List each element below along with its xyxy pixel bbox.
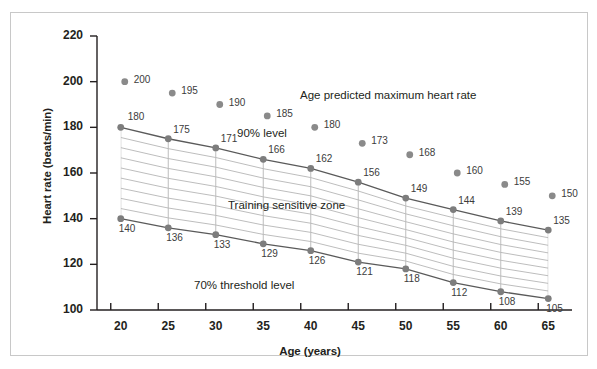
chart-figure: Heart rate (beats/min) Age (years) 10012… [0, 0, 597, 369]
data-point [497, 218, 504, 225]
point-value-label: 180 [324, 119, 341, 130]
data-point [212, 231, 219, 238]
x-tick-label: 20 [106, 319, 136, 333]
point-value-label: 168 [419, 147, 436, 158]
data-point [501, 181, 508, 188]
point-value-label: 200 [134, 74, 151, 85]
x-tick-label: 40 [296, 319, 326, 333]
point-value-label: 175 [173, 124, 190, 135]
y-tick-label: 100 [31, 302, 83, 316]
data-point [402, 266, 409, 273]
point-value-label: 150 [561, 188, 578, 199]
point-value-label: 112 [451, 287, 467, 298]
point-value-label: 140 [119, 223, 136, 234]
point-value-label: 108 [499, 296, 516, 307]
point-value-label: 162 [316, 153, 333, 164]
y-tick-label: 200 [31, 74, 83, 88]
x-tick-label: 65 [533, 319, 563, 333]
data-point [307, 165, 314, 172]
data-point [450, 206, 457, 213]
axis-lines [90, 36, 572, 310]
point-value-label: 155 [514, 176, 531, 187]
series-line-1 [121, 127, 549, 230]
x-tick-label: 55 [438, 319, 468, 333]
data-point [402, 195, 409, 202]
data-point [165, 135, 172, 142]
y-tick-label: 120 [31, 256, 83, 270]
x-tick-label: 25 [153, 319, 183, 333]
point-value-label: 156 [363, 167, 380, 178]
point-value-label: 149 [411, 183, 428, 194]
data-point [216, 101, 223, 108]
x-tick-label: 45 [343, 319, 373, 333]
point-value-label: 129 [261, 248, 278, 259]
data-point [454, 170, 461, 177]
point-value-label: 126 [309, 255, 326, 266]
data-point [307, 247, 314, 254]
point-value-label: 190 [229, 97, 246, 108]
y-tick-label: 180 [31, 119, 83, 133]
point-value-label: 144 [458, 195, 475, 206]
data-point [406, 151, 413, 158]
chart-annotation: Training sensitive zone [228, 199, 345, 211]
data-point [355, 259, 362, 266]
point-value-label: 105 [546, 303, 563, 314]
point-value-label: 180 [128, 111, 145, 122]
data-point [450, 279, 457, 286]
point-value-label: 185 [276, 108, 293, 119]
point-value-label: 160 [466, 165, 483, 176]
data-point [311, 124, 318, 131]
y-tick-label: 160 [31, 165, 83, 179]
y-tick-label: 220 [31, 28, 83, 42]
data-point [117, 215, 124, 222]
data-point [165, 224, 172, 231]
chart-annotation: 70% threshold level [194, 279, 294, 291]
point-value-label: 136 [166, 232, 183, 243]
training-sensitive-zone [121, 127, 549, 298]
plot-canvas [0, 0, 597, 369]
data-point [359, 140, 366, 147]
data-point [260, 156, 267, 163]
data-point [549, 192, 556, 199]
point-value-label: 173 [371, 135, 388, 146]
x-tick-label: 50 [391, 319, 421, 333]
data-point [212, 144, 219, 151]
x-axis-title: Age (years) [230, 345, 390, 357]
data-series-group [117, 78, 555, 302]
data-point [260, 240, 267, 247]
x-tick-label: 60 [486, 319, 516, 333]
data-point [264, 113, 271, 120]
data-point [121, 78, 128, 85]
x-tick-label: 30 [201, 319, 231, 333]
point-value-label: 195 [181, 85, 198, 96]
point-value-label: 166 [268, 144, 285, 155]
point-value-label: 171 [221, 133, 238, 144]
point-value-label: 133 [214, 239, 231, 250]
data-point [169, 90, 176, 97]
chart-annotation: 90% level [237, 127, 287, 139]
point-value-label: 121 [356, 266, 373, 277]
data-point [545, 227, 552, 234]
data-point [497, 288, 504, 295]
data-point [117, 124, 124, 131]
y-tick-label: 140 [31, 211, 83, 225]
data-point [545, 295, 552, 302]
point-value-label: 135 [553, 215, 570, 226]
x-tick-label: 35 [248, 319, 278, 333]
chart-annotation: Age predicted maximum heart rate [300, 89, 476, 101]
series-line-2 [121, 219, 549, 299]
point-value-label: 139 [506, 206, 523, 217]
point-value-label: 118 [404, 273, 420, 284]
data-point [355, 179, 362, 186]
